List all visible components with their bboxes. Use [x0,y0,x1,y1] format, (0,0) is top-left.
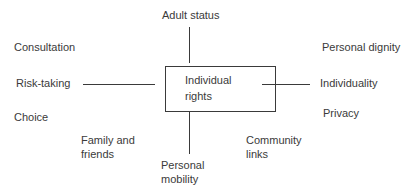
label-adult-status: Adult status [162,8,219,22]
connector-left [83,84,155,85]
center-box: Individual rights [165,66,276,112]
label-privacy: Privacy [323,106,359,120]
label-individuality: Individuality [320,76,377,90]
connector-bottom [189,112,190,154]
label-personal-dignity: Personal dignity [322,40,400,54]
label-consultation: Consultation [14,40,75,54]
label-risk-taking: Risk-taking [16,76,70,90]
label-family-and-friends: Family and friends [81,133,135,161]
label-choice: Choice [14,110,48,124]
label-community-links: Community links [246,133,302,161]
center-label: Individual rights [185,72,231,104]
label-personal-mobility: Personal mobility [161,158,204,186]
connector-top [189,27,190,63]
